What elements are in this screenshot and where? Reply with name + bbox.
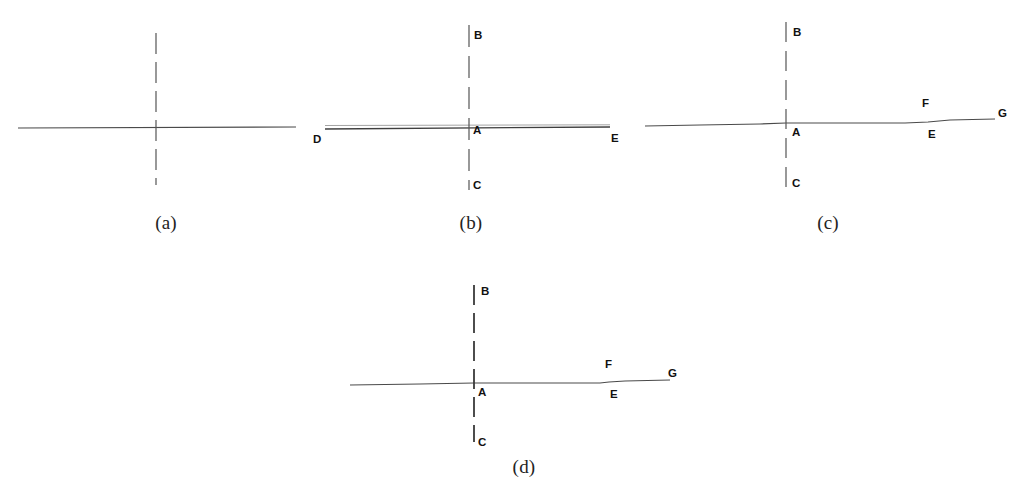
panel-d-label-c: C	[478, 436, 486, 448]
panel-d-label-a: A	[478, 386, 486, 398]
panel-c-label-f: F	[922, 97, 929, 109]
panel-c-label-a: A	[792, 126, 800, 138]
figure-background	[0, 0, 1017, 502]
panel-d-label-g: G	[668, 367, 677, 379]
panel-b-label-c: C	[473, 179, 481, 191]
panel-d-label-b: B	[481, 285, 489, 297]
panel-b-label-a: A	[473, 124, 481, 136]
panel-c-label-g: G	[998, 107, 1007, 119]
panel-d-caption: (d)	[513, 456, 536, 478]
panel-d-label-e: E	[610, 388, 618, 400]
panel-a-caption: (a)	[155, 212, 177, 234]
panel-b-label-e: E	[611, 132, 619, 144]
panel-d-label-f: F	[605, 358, 612, 370]
panel-c-label-e: E	[928, 128, 936, 140]
panel-c-caption: (c)	[817, 212, 839, 234]
panel-b-label-d: D	[313, 133, 321, 145]
panel-c-label-c: C	[792, 177, 800, 189]
panel-c-label-b: B	[793, 26, 801, 38]
panel-b-caption: (b)	[460, 212, 483, 234]
geometry-figure-canvas	[0, 0, 1017, 502]
panel-b-label-b: B	[474, 29, 482, 41]
